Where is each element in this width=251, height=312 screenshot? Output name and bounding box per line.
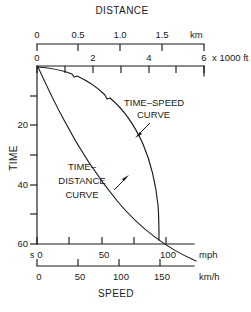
time-speed-arrowhead: [135, 132, 142, 138]
time-tick-label-60: 60: [17, 238, 28, 249]
acceleration-performance-diagram: DISTANCE 0 0.5 1.0 1.5 km 0 2 4 6 x 1000…: [0, 0, 251, 312]
kmh-tick-label-100: 100: [113, 271, 129, 282]
time-distance-label-line1: TIME–: [68, 161, 97, 172]
mph-tick-label-50: 50: [99, 249, 110, 260]
time-distance-arrowhead: [122, 175, 129, 181]
diagram-canvas: DISTANCE 0 0.5 1.0 1.5 km 0 2 4 6 x 1000…: [0, 0, 251, 312]
km-tick-label-1: 0.5: [71, 29, 84, 40]
mph-tick-label-0: 0: [37, 249, 42, 260]
mph-axis: 0 50 100 mph: [37, 237, 217, 260]
time-unit-label: s: [30, 250, 34, 260]
bottom-axis-title: SPEED: [98, 288, 134, 299]
kmh-unit-label: km/h: [199, 271, 220, 282]
ft-tick-label-3: 6: [201, 52, 206, 63]
time-tick-label-40: 40: [17, 179, 28, 190]
mph-unit-label: mph: [199, 249, 217, 260]
ft-unit-label: x 1000 ft: [212, 52, 249, 63]
time-axis: TIME 20 40 60 s: [8, 96, 37, 260]
ft-axis: 0 2 4 6 x 1000 ft: [34, 52, 248, 73]
ft-tick-label-2: 4: [146, 52, 151, 63]
time-distance-annotation: TIME– DISTANCE CURVE: [58, 161, 129, 200]
km-tick-label-0: 0: [34, 29, 39, 40]
time-distance-label-line3: CURVE: [65, 189, 98, 200]
km-axis: 0 0.5 1.0 1.5 km: [34, 29, 204, 51]
time-distance-label-line2: DISTANCE: [58, 175, 105, 186]
kmh-axis: 0 50 100 150 km/h: [36, 259, 219, 282]
ft-tick-label-1: 2: [90, 52, 95, 63]
kmh-tick-label-50: 50: [75, 271, 86, 282]
km-unit-label: km: [190, 29, 203, 40]
left-axis-title: TIME: [8, 145, 19, 171]
time-speed-annotation: TIME–SPEED CURVE: [124, 97, 184, 138]
top-axis-title: DISTANCE: [95, 5, 148, 16]
kmh-tick-label-150: 150: [154, 271, 170, 282]
mph-tick-label-100: 100: [160, 249, 176, 260]
km-tick-label-3: 1.5: [155, 29, 168, 40]
km-tick-label-2: 1.0: [113, 29, 126, 40]
time-tick-label-20: 20: [17, 119, 28, 130]
ft-tick-label-0: 0: [34, 52, 39, 63]
time-speed-curve: [38, 67, 159, 240]
kmh-tick-label-0: 0: [36, 271, 41, 282]
time-speed-label-line2: CURVE: [137, 109, 170, 120]
time-speed-label-line1: TIME–SPEED: [124, 97, 184, 108]
